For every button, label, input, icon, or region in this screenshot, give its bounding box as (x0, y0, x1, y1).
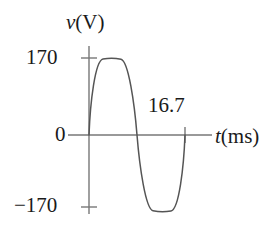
y-tick-label-0: 0 (55, 124, 66, 145)
y-axis-unit: (V) (75, 10, 104, 34)
x-tick-label-16-7: 16.7 (148, 95, 185, 116)
y-axis-variable: v (66, 10, 75, 34)
sine-waveform-figure: v(V) t(ms) 170 0 −170 16.7 (0, 0, 276, 231)
x-axis-unit: (ms) (221, 124, 260, 148)
x-axis-label: t(ms) (215, 126, 259, 147)
y-axis-label: v(V) (66, 12, 104, 33)
y-tick-label-170: 170 (26, 47, 58, 68)
y-tick-label-neg170: −170 (14, 195, 57, 216)
